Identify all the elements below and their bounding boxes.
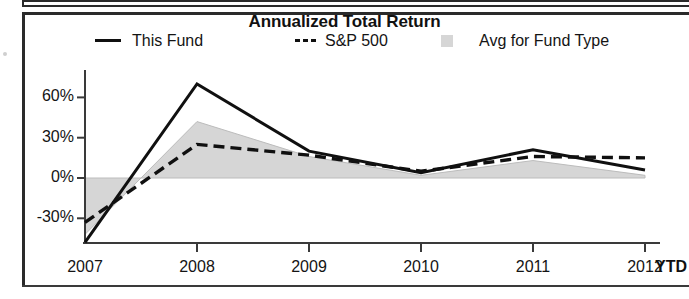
x-axis-tick-label: 2009 — [291, 258, 327, 276]
chart-bottom-rule — [22, 285, 689, 287]
x-axis-tick-label: 2008 — [179, 258, 215, 276]
scan-edge-strip — [22, 0, 689, 7]
chart-title: Annualized Total Return — [0, 12, 689, 32]
legend-label-avg-for-fund-type: Avg for Fund Type — [479, 32, 609, 50]
y-axis-tick-label: -30% — [2, 208, 74, 226]
legend-label-this-fund: This Fund — [132, 32, 203, 50]
x-axis-tick-label: 2011 — [516, 258, 550, 276]
x-axis-labels: 200720082009201020112012 — [0, 258, 689, 282]
y-axis-tick-label: 60% — [2, 87, 74, 105]
legend-item-avg-for-fund-type: Avg for Fund Type — [441, 32, 609, 50]
y-axis-labels: 60%30%0%-30% — [0, 0, 74, 299]
legend-label-sp500: S&P 500 — [325, 32, 388, 50]
x-axis-tick-label: 2007 — [67, 258, 103, 276]
y-axis-tick-label: 30% — [2, 128, 74, 146]
gray-square-icon — [441, 35, 453, 47]
legend-item-sp500: S&P 500 — [295, 32, 388, 50]
chart-legend: This Fund S&P 500 Avg for Fund Type — [95, 31, 675, 55]
legend-item-this-fund: This Fund — [95, 32, 203, 50]
x-axis-ytd-label: YTD — [655, 258, 687, 276]
x-axis-tick-label: 2010 — [403, 258, 439, 276]
y-axis-tick-label: 0% — [2, 168, 74, 186]
solid-line-icon — [95, 39, 121, 42]
dashed-line-icon — [295, 39, 317, 42]
